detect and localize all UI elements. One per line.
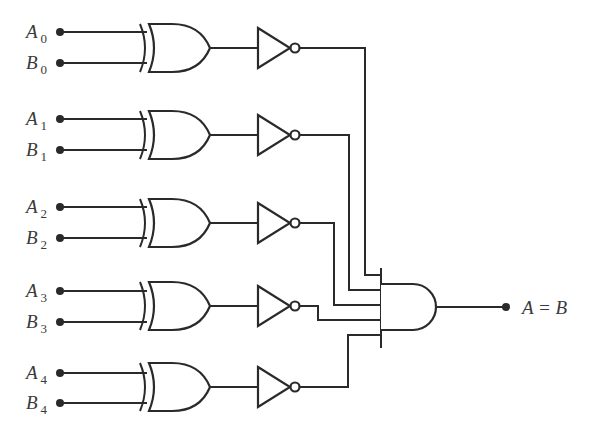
input-label-a1: A1 xyxy=(24,108,47,133)
and-gate xyxy=(381,268,436,348)
xor-body xyxy=(149,199,210,247)
not-triangle xyxy=(258,286,290,326)
xor-gate-1 xyxy=(140,111,210,159)
stage-3: A3B3 xyxy=(24,280,381,336)
xor-gate-4 xyxy=(140,363,210,411)
wire-not-and-3 xyxy=(300,306,381,320)
input-label-b0: B0 xyxy=(26,52,47,77)
xor-gate-3 xyxy=(140,282,210,330)
inversion-bubble-icon xyxy=(291,44,300,53)
xor-gate-2 xyxy=(140,199,210,247)
input-label-b1: B1 xyxy=(26,139,47,164)
xor-body xyxy=(149,24,210,72)
comparator-circuit: A0B0A1B1A2B2A3B3A4B4A = B xyxy=(0,0,591,437)
not-gate-1 xyxy=(258,115,300,155)
inversion-bubble-icon xyxy=(291,383,300,392)
input-label-a0: A0 xyxy=(24,21,47,46)
not-triangle xyxy=(258,115,290,155)
wire-not-and-4 xyxy=(300,335,381,387)
input-label-b2: B2 xyxy=(26,227,47,252)
not-gate-4 xyxy=(258,367,300,407)
inversion-bubble-icon xyxy=(291,131,300,140)
and-body xyxy=(381,284,436,330)
input-label-a3: A3 xyxy=(24,280,47,305)
input-label-a4: A4 xyxy=(24,362,48,387)
stage-2: A2B2 xyxy=(24,196,381,305)
input-label-a2: A2 xyxy=(24,196,47,221)
output-label: A = B xyxy=(520,297,568,318)
stage-1: A1B1 xyxy=(24,108,381,290)
wire-not-and-1 xyxy=(300,135,381,290)
wire-not-and-2 xyxy=(300,223,381,305)
inversion-bubble-icon xyxy=(291,302,300,311)
inversion-bubble-icon xyxy=(291,219,300,228)
xor-body xyxy=(149,363,210,411)
not-triangle xyxy=(258,28,290,68)
xor-gate-0 xyxy=(140,24,210,72)
not-gate-0 xyxy=(258,28,300,68)
xor-body xyxy=(149,282,210,330)
xor-body xyxy=(149,111,210,159)
output-terminal[interactable] xyxy=(502,303,510,311)
not-gate-3 xyxy=(258,286,300,326)
input-label-b3: B3 xyxy=(26,311,47,336)
not-gate-2 xyxy=(258,203,300,243)
input-label-b4: B4 xyxy=(26,392,48,417)
not-triangle xyxy=(258,367,290,407)
not-triangle xyxy=(258,203,290,243)
wire-not-and-0 xyxy=(300,48,381,275)
stage-4: A4B4 xyxy=(24,335,381,417)
